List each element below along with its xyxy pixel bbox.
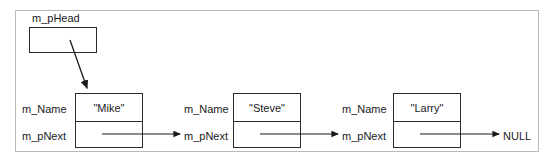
node-3-next-cell: [394, 122, 460, 147]
node-2-next-label: m_pNext: [184, 130, 228, 143]
node-3-box: "Larry": [393, 93, 461, 148]
head-pointer-box: [29, 27, 97, 53]
node-1-next-label: m_pNext: [22, 130, 66, 143]
null-terminator-label: NULL: [503, 130, 531, 143]
node-1-next-cell: [76, 122, 142, 147]
node-3-name-value: "Larry": [394, 94, 460, 122]
node-2-name-value: "Steve": [234, 94, 300, 122]
node-1-name-value: "Mike": [76, 94, 142, 122]
node-1-box: "Mike": [75, 93, 143, 148]
node-3-name-label: m_Name: [342, 103, 387, 116]
node-2-name-label: m_Name: [184, 103, 229, 116]
diagram-canvas: m_pHead m_Name m_pNext "Mike" m_Name m_p…: [0, 0, 553, 164]
node-1-name-label: m_Name: [22, 103, 67, 116]
head-pointer-label: m_pHead: [32, 12, 80, 25]
node-2-box: "Steve": [233, 93, 301, 148]
node-2-next-cell: [234, 122, 300, 147]
node-3-next-label: m_pNext: [342, 130, 386, 143]
